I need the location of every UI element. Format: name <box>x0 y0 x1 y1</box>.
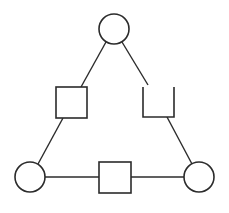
left-square-node <box>56 87 87 118</box>
triangle-network-diagram <box>0 0 229 213</box>
bottom-right-circle-node <box>184 162 214 192</box>
bottom-left-circle-node <box>15 162 45 192</box>
top-circle-node <box>99 14 129 44</box>
right-open-box-node <box>143 87 174 117</box>
edge-top-to-left-square <box>81 42 106 87</box>
bottom-square-node <box>99 162 131 193</box>
edge-top-to-right-box <box>122 42 148 85</box>
nodes-group <box>15 14 214 193</box>
edge-left-square-to-bottom-left <box>38 118 63 164</box>
edge-right-box-to-bottom-right <box>167 117 192 164</box>
